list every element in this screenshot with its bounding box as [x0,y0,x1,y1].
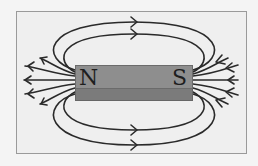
magnet-front-face [75,89,193,101]
bar-magnet: N S [75,65,193,101]
field-line-top-outer [53,22,214,70]
magnet-top-face: N S [75,65,193,89]
north-pole-label: N [79,67,98,89]
field-line-bottom-outer [53,94,214,145]
south-pole-label: S [172,67,187,89]
